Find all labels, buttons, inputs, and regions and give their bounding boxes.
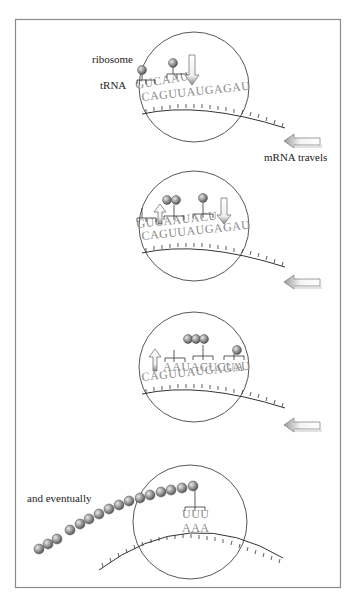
trna-anticodons-3: AAUACUCUA: [163, 360, 244, 374]
panel-2: CAGUUAUGAGAU GUCAAUACU: [136, 171, 322, 289]
translation-diagram: ribosome tRNA CAGUUAUGAGAU GUCAAU m: [0, 0, 354, 602]
ribosome-label: ribosome: [92, 53, 133, 65]
mrna-travels-label: mRNA travels: [264, 151, 327, 163]
trna-label: tRNA: [100, 79, 126, 91]
panel-3: CAGUUAUGAGAU AAUACUCUA: [139, 312, 322, 432]
panel-4: AAA UUU and eventually: [27, 465, 283, 579]
mrna-strand: [142, 110, 285, 128]
amino-acid-3: [199, 194, 208, 203]
amino-acid-4: [233, 346, 242, 355]
mrna-ticks: [146, 104, 283, 127]
amino-acid-1: [184, 335, 193, 344]
amino-acid-1: [163, 196, 172, 205]
panel-1: ribosome tRNA CAGUUAUGAGAU GUCAAU m: [92, 32, 327, 163]
mrna-codon-4: AAA: [182, 521, 210, 535]
eventually-label: and eventually: [27, 492, 92, 504]
amino-acid-1: [138, 66, 147, 75]
amino-acid-2: [169, 59, 178, 68]
mrna-direction-arrow-3: [284, 418, 322, 432]
amino-acid-2: [192, 335, 201, 344]
amino-acid-2: [172, 196, 181, 205]
mrna-direction-arrow-1: [284, 134, 322, 148]
amino-acid-3: [200, 335, 209, 344]
mrna-direction-arrow-2: [284, 275, 322, 289]
